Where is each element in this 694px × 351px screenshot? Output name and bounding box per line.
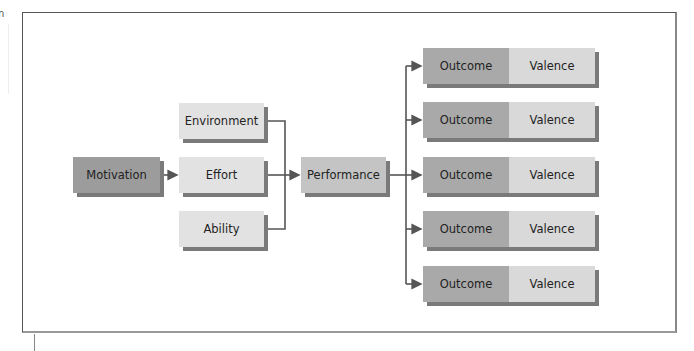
outcome-valence-pair-5: Outcome Valence [423,266,595,302]
node-environment: Environment [179,103,264,139]
valence-cell: Valence [509,266,595,302]
outcome-cell: Outcome [423,157,509,193]
node-effort: Effort [179,157,264,193]
node-label: Effort [206,168,237,182]
node-label: Motivation [86,168,147,182]
outcome-valence-pair-1: Outcome Valence [423,48,595,84]
outcome-valence-pair-4: Outcome Valence [423,211,595,247]
outcome-cell: Outcome [423,211,509,247]
node-motivation: Motivation [73,157,160,193]
outcome-cell: Outcome [423,102,509,138]
node-label: Ability [203,222,239,236]
outcome-cell: Outcome [423,266,509,302]
node-ability: Ability [179,211,264,247]
node-label: Performance [307,168,380,182]
valence-cell: Valence [509,102,595,138]
node-performance: Performance [301,157,386,193]
node-label: Environment [185,114,258,128]
outcome-valence-pair-3: Outcome Valence [423,157,595,193]
valence-cell: Valence [509,157,595,193]
valence-cell: Valence [509,48,595,84]
outcome-cell: Outcome [423,48,509,84]
valence-cell: Valence [509,211,595,247]
outcome-valence-pair-2: Outcome Valence [423,102,595,138]
